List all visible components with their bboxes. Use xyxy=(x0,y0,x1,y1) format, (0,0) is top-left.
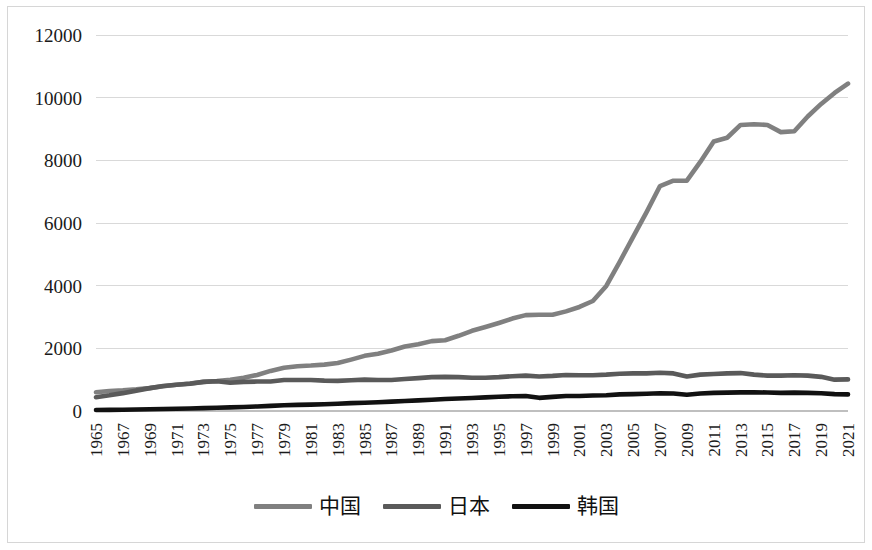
y-axis-tick-label: 12000 xyxy=(35,25,83,46)
x-axis-tick-label: 1985 xyxy=(356,423,375,457)
x-axis-tick-label: 1975 xyxy=(221,423,240,457)
x-axis-tick-label: 2001 xyxy=(570,423,589,457)
x-axis-tick-label: 1999 xyxy=(544,423,563,457)
x-axis-tick-label: 1993 xyxy=(463,423,482,457)
series-line-韩国 xyxy=(96,392,848,410)
legend-swatch-icon xyxy=(512,504,570,509)
x-axis-tick-label: 1965 xyxy=(87,423,106,457)
legend-label: 中国 xyxy=(319,496,361,517)
legend-item[interactable]: 中国 xyxy=(254,496,361,517)
legend-item[interactable]: 韩国 xyxy=(512,496,619,517)
chart-container: 020004000600080001000012000 196519671969… xyxy=(0,0,872,550)
legend-label: 韩国 xyxy=(577,496,619,517)
x-axis-tick-label: 1997 xyxy=(517,423,536,458)
x-axis-tick-label: 1991 xyxy=(436,423,455,457)
plot-area: 020004000600080001000012000 196519671969… xyxy=(0,0,872,550)
legend-item[interactable]: 日本 xyxy=(383,496,490,517)
x-axis-tick-label: 1973 xyxy=(194,423,213,457)
y-axis-tick-label: 4000 xyxy=(44,276,82,297)
x-axis-tick-label: 2003 xyxy=(597,423,616,457)
legend-swatch-icon xyxy=(254,504,312,509)
y-axis-tick-label: 10000 xyxy=(35,88,83,109)
x-axis-tick-label: 2015 xyxy=(758,423,777,457)
x-axis-tick-label: 2019 xyxy=(812,423,831,457)
x-axis-tick-label: 1989 xyxy=(409,423,428,457)
y-axis-tick-label: 0 xyxy=(73,401,83,422)
y-axis-tick-label: 2000 xyxy=(44,338,82,359)
x-axis-tick-label: 1977 xyxy=(248,423,267,458)
x-axis-tick-label: 2009 xyxy=(678,423,697,457)
x-axis-tick-label: 2013 xyxy=(732,423,751,457)
series-group xyxy=(96,84,848,410)
x-axis-tick-label: 1969 xyxy=(141,423,160,457)
y-axis-tick-label: 8000 xyxy=(44,150,82,171)
x-axis-tick-label: 2011 xyxy=(705,423,724,456)
legend-label: 日本 xyxy=(448,496,490,517)
x-axis-tick-label: 1979 xyxy=(275,423,294,457)
x-axis-tick-label: 1995 xyxy=(490,423,509,457)
x-axis-tick-label: 1987 xyxy=(382,423,401,458)
y-axis-tick-label: 6000 xyxy=(44,213,82,234)
gridlines-group xyxy=(96,35,848,411)
x-axis-tick-label: 1967 xyxy=(114,423,133,458)
x-axis-tick-label: 2007 xyxy=(651,423,670,458)
x-axis-tick-label: 2005 xyxy=(624,423,643,457)
x-axis-tick-label: 2017 xyxy=(785,423,804,458)
y-axis-tick-labels: 020004000600080001000012000 xyxy=(35,25,83,422)
x-axis-tick-label: 2021 xyxy=(839,423,858,457)
x-axis-tick-label: 1983 xyxy=(329,423,348,457)
line-chart-svg: 020004000600080001000012000 196519671969… xyxy=(0,0,872,550)
series-line-中国 xyxy=(96,84,848,393)
legend-swatch-icon xyxy=(383,504,441,509)
x-axis-tick-label: 1981 xyxy=(302,423,321,457)
chart-legend: 中国日本韩国 xyxy=(0,496,872,517)
x-axis-tick-labels: 1965196719691971197319751977197919811983… xyxy=(87,423,858,458)
x-axis-tick-label: 1971 xyxy=(168,423,187,457)
